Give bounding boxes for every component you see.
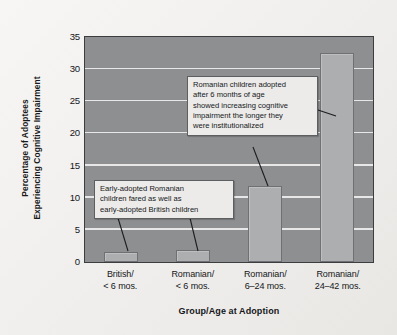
y-axis-title: Percentage of Adoptees Experiencing Cogn… — [14, 30, 48, 265]
annotation-late-line-3: showed increasing cognitive — [193, 101, 312, 111]
bar-2 — [176, 250, 209, 262]
x-axis-tick-labels: British/< 6 mos.Romanian/< 6 mos.Romania… — [84, 268, 374, 302]
chart-figure: Percentage of Adoptees Experiencing Cogn… — [0, 0, 397, 335]
bar-3 — [248, 186, 281, 262]
x-tick-label-4-line-2: 24–42 mos. — [302, 280, 375, 292]
annotation-early-line-1: Early-adopted Romanian — [100, 184, 228, 194]
y-tick-label-20: 20 — [55, 127, 80, 138]
y-tick-label-30: 30 — [55, 63, 80, 74]
annotation-late-line-1: Romanian children adopted — [193, 80, 312, 90]
plot-area — [84, 36, 374, 263]
bar-4 — [320, 53, 353, 262]
y-tick-label-15: 15 — [55, 159, 80, 170]
annotation-early-adoption: Early-adopted Romanian children fared as… — [94, 180, 234, 219]
x-tick-label-1-line-1: British/ — [84, 268, 157, 280]
x-tick-label-3-line-1: Romanian/ — [229, 268, 302, 280]
x-tick-label-1-line-2: < 6 mos. — [84, 280, 157, 292]
bar-1 — [104, 252, 137, 262]
annotation-late-line-4: impairment the longer they — [193, 111, 312, 121]
y-tick-label-0: 0 — [55, 256, 80, 267]
x-tick-label-1: British/< 6 mos. — [84, 268, 157, 302]
y-tick-label-35: 35 — [55, 31, 80, 42]
x-tick-label-4-line-1: Romanian/ — [302, 268, 375, 280]
y-axis-title-text: Percentage of Adoptees Experiencing Cogn… — [20, 76, 43, 219]
x-tick-label-2-line-1: Romanian/ — [157, 268, 230, 280]
x-tick-label-2-line-2: < 6 mos. — [157, 280, 230, 292]
x-tick-label-3-line-2: 6–24 mos. — [229, 280, 302, 292]
annotation-late-line-5: were institutionalized — [193, 121, 312, 131]
y-tick-label-5: 5 — [55, 223, 80, 234]
annotation-early-line-2: children fared as well as — [100, 194, 228, 204]
y-tick-label-10: 10 — [55, 191, 80, 202]
y-tick-label-25: 25 — [55, 95, 80, 106]
x-axis-title: Group/Age at Adoption — [84, 306, 374, 316]
x-tick-label-3: Romanian/6–24 mos. — [229, 268, 302, 302]
annotation-early-line-3: early-adopted British children — [100, 205, 228, 215]
annotation-late-line-2: after 6 months of age — [193, 90, 312, 100]
x-tick-label-2: Romanian/< 6 mos. — [157, 268, 230, 302]
y-axis-tick-labels: 05101520253035 — [55, 28, 80, 278]
y-axis-title-line-1: Percentage of Adoptees — [20, 76, 32, 219]
x-tick-label-4: Romanian/24–42 mos. — [302, 268, 375, 302]
annotation-late-adoption: Romanian children adopted after 6 months… — [187, 76, 318, 136]
y-axis-title-line-2: Experiencing Cognitive Impairment — [31, 76, 43, 219]
